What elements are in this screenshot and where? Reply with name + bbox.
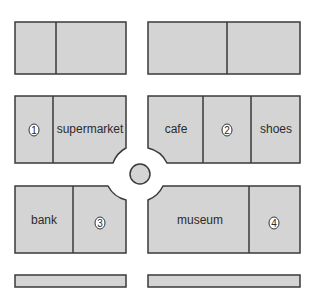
label-cafe: cafe [165,122,188,136]
marker-3-number: 3 [97,218,103,229]
block-bottom-strip-left [15,275,126,287]
marker-1-number: 1 [31,125,37,136]
label-bank: bank [31,213,58,227]
street-map: supermarket cafe shoes bank museum 1 2 3… [0,0,316,303]
block-top-left [15,22,126,74]
marker-2-number: 2 [224,125,230,136]
block-top-left-shape [15,22,126,74]
marker-2: 2 [222,124,232,136]
marker-4-number: 4 [271,218,277,229]
marker-4: 4 [269,217,279,229]
label-shoes: shoes [260,122,292,136]
block-top-right-shape [148,22,300,74]
label-museum: museum [177,213,223,227]
marker-3: 3 [95,217,105,229]
block-bottom-strip-right [148,275,300,287]
marker-1: 1 [29,124,39,136]
label-supermarket: supermarket [57,122,124,136]
roundabout-icon [130,164,150,184]
block-top-right [148,22,300,74]
